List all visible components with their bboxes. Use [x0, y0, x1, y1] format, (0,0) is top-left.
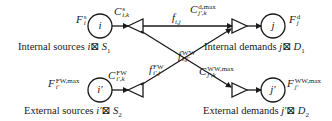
external-demand-symbol: j′: [261, 84, 285, 95]
mixer-bottom-icon: [232, 83, 247, 97]
splitter-top-icon: [128, 19, 143, 33]
flow-i-jprime-label: fWWi,j′: [178, 50, 195, 63]
internal-demand-concentration-label: Cd,maxj′,k: [190, 4, 216, 17]
flow-iprime-j-label: fFWi′,j: [149, 64, 164, 77]
internal-source-flow-label: Fsi: [76, 14, 86, 27]
external-demands-caption: External demands j′⊠ D2: [203, 106, 309, 119]
flow-i-j-label: fi,j: [172, 12, 181, 26]
network-diagram: [0, 0, 332, 121]
internal-demands-caption: Internal demands j⊠ D1: [204, 42, 305, 55]
external-demand-concentration-label: CWW,maxj′,k: [199, 66, 234, 79]
internal-demand-flow-label: Fdj: [289, 14, 300, 27]
external-source-flow-label: FFW,maxi′: [48, 78, 79, 91]
internal-source-concentration-label: Csi,k: [114, 6, 129, 19]
mixer-top-icon: [232, 19, 247, 33]
external-source-concentration-label: CFWi′,k: [108, 70, 127, 83]
external-sources-caption: External sources i′⊠ S2: [24, 106, 122, 119]
splitter-bottom-icon: [128, 83, 143, 97]
internal-sources-caption: Internal sources i⊠ S1: [18, 42, 111, 55]
internal-source-symbol: i: [88, 20, 112, 31]
internal-demand-symbol: j: [261, 20, 285, 31]
external-demand-flow-label: FWW,maxj′: [287, 78, 321, 91]
external-source-symbol: i′: [88, 84, 112, 95]
